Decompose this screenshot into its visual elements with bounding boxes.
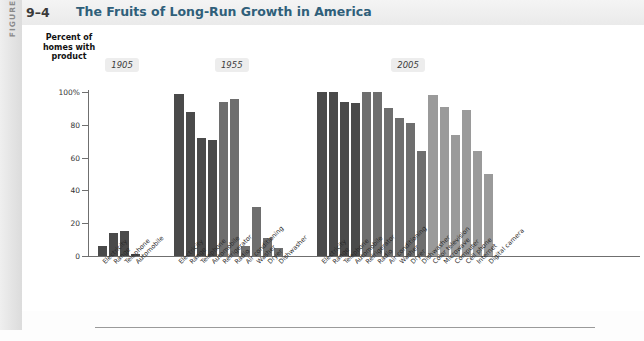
bar [174,94,183,256]
bar [317,92,326,256]
figure-container: FIGURE 9–4 The Fruits of Long-Run Growth… [0,0,644,341]
bar [230,99,239,256]
figure-bottom-rule [95,327,595,328]
bar [362,92,371,256]
bar [208,140,217,256]
bar [428,95,437,256]
bar [373,92,382,256]
bar [440,107,449,256]
bar [351,103,360,256]
bar [329,92,338,256]
bars-layer [0,0,644,341]
bar [340,102,349,256]
bar [186,112,195,256]
bar [395,118,404,256]
bar [219,102,228,256]
bar [417,151,426,256]
